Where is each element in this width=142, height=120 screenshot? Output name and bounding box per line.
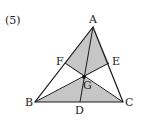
label-c: C — [125, 96, 133, 109]
triangle-diagram: (5) A B C D E F G — [0, 0, 142, 120]
label-g: G — [83, 79, 92, 92]
label-d: D — [75, 104, 84, 117]
label-b: B — [25, 96, 33, 109]
label-f: F — [56, 55, 64, 68]
problem-number: (5) — [5, 14, 21, 27]
shaded-region-bgc — [35, 77, 123, 102]
label-a: A — [88, 13, 98, 26]
label-e: E — [112, 55, 120, 68]
